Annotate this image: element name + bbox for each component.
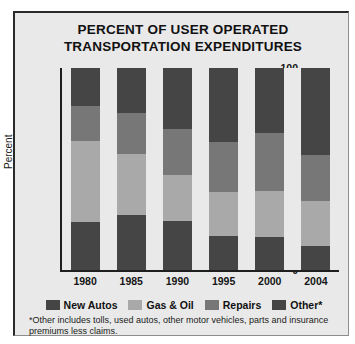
chart-panel: PERCENT OF USER OPERATED TRANSPORTATION …: [13, 11, 349, 336]
bar-segment-new-autos: [301, 246, 330, 270]
chart-figure: PERCENT OF USER OPERATED TRANSPORTATION …: [0, 0, 355, 344]
bar-segment-repairs: [255, 133, 284, 192]
legend-label: Other*: [290, 299, 322, 311]
x-axis-tick-label: 2000: [247, 275, 293, 287]
bar-segment-repairs: [163, 129, 192, 175]
bar-segment-repairs: [301, 155, 330, 201]
bar-segment-gas-oil: [301, 201, 330, 245]
chart-title-line-1: PERCENT OF USER OPERATED: [78, 22, 289, 37]
x-axis-tick-label: 1990: [154, 275, 200, 287]
x-axis-tick-label: 1995: [201, 275, 247, 287]
bar-segment-other: [71, 68, 100, 106]
chart-legend: New AutosGas & OilRepairsOther*: [29, 299, 339, 311]
chart-title: PERCENT OF USER OPERATED TRANSPORTATION …: [15, 21, 351, 55]
bar-segment-gas-oil: [255, 191, 284, 236]
bar-segment-other: [117, 68, 146, 113]
bar-segment-repairs: [209, 142, 238, 193]
bar-group: [62, 68, 339, 270]
x-axis-tick-label: 2004: [293, 275, 339, 287]
legend-label: Repairs: [223, 299, 262, 311]
bar-1980: [71, 68, 100, 270]
legend-swatch-icon: [205, 300, 219, 310]
plot-area: [60, 68, 339, 272]
bar-segment-gas-oil: [117, 154, 146, 216]
bar-1990: [163, 68, 192, 270]
bar-segment-repairs: [117, 113, 146, 153]
y-axis-title: Percent: [3, 135, 14, 169]
bar-segment-gas-oil: [71, 141, 100, 222]
bar-segment-new-autos: [163, 221, 192, 270]
legend-label: New Autos: [64, 299, 118, 311]
chart-footnote: *Other includes tolls, used autos, other…: [29, 315, 341, 337]
bar-segment-gas-oil: [163, 175, 192, 220]
legend-item-new-autos: New Autos: [46, 299, 118, 311]
x-axis-tick-label: 1985: [108, 275, 154, 287]
chart-title-line-2: TRANSPORTATION EXPENDITURES: [15, 38, 351, 55]
bar-segment-gas-oil: [209, 192, 238, 235]
legend-swatch-icon: [46, 300, 60, 310]
bar-segment-new-autos: [255, 237, 284, 270]
bar-segment-new-autos: [209, 236, 238, 270]
bar-2004: [301, 68, 330, 270]
legend-item-repairs: Repairs: [205, 299, 262, 311]
bar-1995: [209, 68, 238, 270]
bar-segment-other: [255, 68, 284, 133]
bar-2000: [255, 68, 284, 270]
legend-item-gas-oil: Gas & Oil: [128, 299, 193, 311]
bar-1985: [117, 68, 146, 270]
legend-label: Gas & Oil: [146, 299, 193, 311]
bar-segment-other: [301, 68, 330, 155]
bar-segment-new-autos: [71, 222, 100, 270]
bar-segment-new-autos: [117, 215, 146, 270]
bar-segment-other: [209, 68, 238, 142]
legend-swatch-icon: [272, 300, 286, 310]
bar-segment-repairs: [71, 106, 100, 140]
x-axis-tick-label: 1980: [62, 275, 108, 287]
bar-segment-other: [163, 68, 192, 129]
legend-swatch-icon: [128, 300, 142, 310]
legend-item-other: Other*: [272, 299, 322, 311]
